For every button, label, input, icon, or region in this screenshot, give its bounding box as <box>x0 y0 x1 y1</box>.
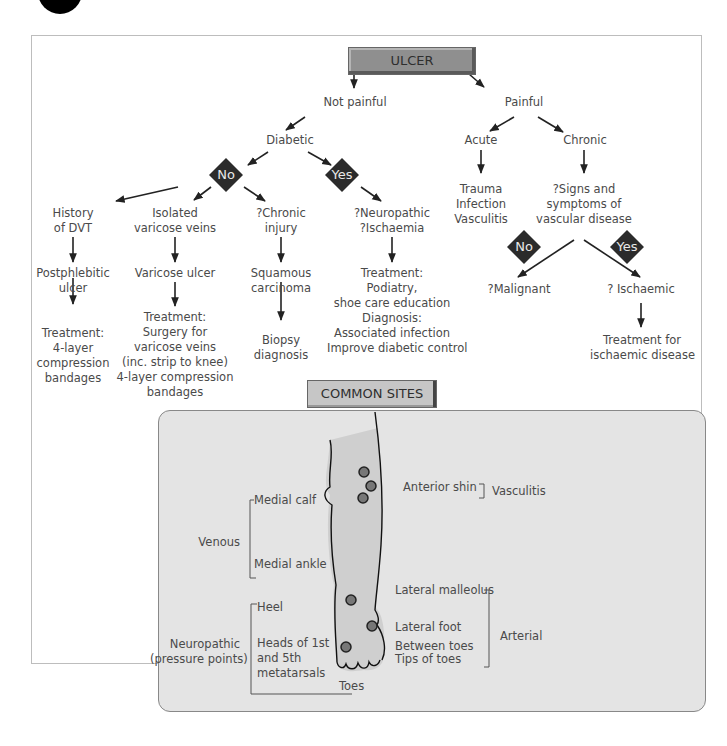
site-medial-calf: Medial calf <box>254 493 316 508</box>
site-lateral-malleolus: Lateral malleolus <box>395 583 494 598</box>
site-between-toes: Between toesTips of toes <box>395 640 474 666</box>
group-venous: Venous <box>190 535 240 550</box>
site-lateral-foot: Lateral foot <box>395 620 461 635</box>
site-metatarsals: Heads of 1stand 5thmetatarsals <box>257 636 329 681</box>
site-anterior-shin: Anterior shin <box>403 480 477 495</box>
group-vasculitis: Vasculitis <box>492 484 546 499</box>
site-medial-ankle: Medial ankle <box>254 557 327 572</box>
group-neuropathic: Neuropathic(pressure points) <box>150 637 240 667</box>
site-toes: Toes <box>339 679 364 694</box>
leg-illustration <box>0 0 727 746</box>
site-heel: Heel <box>257 600 283 615</box>
group-arterial: Arterial <box>500 629 542 644</box>
